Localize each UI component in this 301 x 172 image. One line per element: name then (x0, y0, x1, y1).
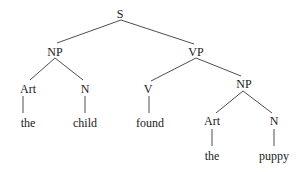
tree-nodes: SNPVPArtNVNPthechildfoundArtNthepuppy (20, 7, 289, 163)
syntax-tree-diagram: SNPVPArtNVNPthechildfoundArtNthepuppy (0, 0, 301, 172)
node-child: child (73, 116, 97, 130)
node-np1: NP (47, 45, 63, 59)
edge-np2-n2 (243, 91, 272, 113)
node-the1: the (21, 116, 36, 130)
node-found: found (136, 116, 164, 130)
edge-s-np1 (57, 20, 121, 43)
node-s: S (117, 7, 124, 21)
node-np2: NP (236, 77, 252, 91)
node-puppy: puppy (259, 149, 289, 163)
node-art2: Art (204, 114, 221, 128)
edge-s-vp (121, 20, 194, 44)
edge-vp-np2 (196, 58, 241, 76)
node-vp: VP (188, 45, 204, 59)
node-n2: N (270, 114, 279, 128)
edge-vp-v (151, 58, 196, 81)
edge-np2-art2 (216, 91, 243, 113)
node-art1: Art (20, 82, 37, 96)
node-the2: the (205, 149, 220, 163)
node-n1: N (81, 82, 90, 96)
edge-np1-art1 (30, 58, 55, 80)
edge-np1-n1 (55, 58, 83, 80)
node-v: V (144, 82, 153, 96)
